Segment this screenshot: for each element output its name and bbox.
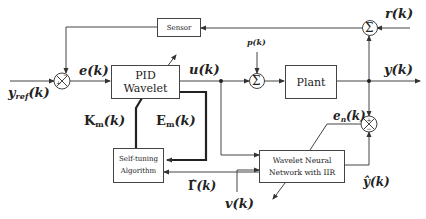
self-tuning-label-2: Algorithm: [121, 166, 157, 177]
em-arg: (k): [174, 113, 195, 128]
plant-label: Plant: [297, 76, 326, 89]
pid-wavelet-label: PID Wavelet: [112, 69, 179, 95]
signal-en: en(k): [333, 110, 366, 124]
signal-gamma-hat: Γ̂(k): [188, 180, 216, 192]
self-tuning-label-1: Self-tuning: [119, 154, 158, 165]
pid-wavelet-block: PID Wavelet: [111, 65, 180, 99]
sensor-label: Sensor: [167, 24, 192, 32]
svg-text:−: −: [63, 71, 68, 78]
sigma-sensor: Σ: [365, 22, 373, 34]
signal-e: e(k): [79, 64, 109, 77]
sigma-plant: Σ: [252, 75, 260, 87]
signal-em: Em(k): [156, 114, 196, 128]
yref-arg: (k): [28, 85, 49, 100]
svg-text:−: −: [367, 125, 372, 132]
signal-km: Km(k): [84, 114, 125, 128]
signal-y-hat: ŷ(k): [363, 176, 390, 188]
svg-text:+: +: [56, 79, 61, 86]
plant-block: Plant: [285, 65, 337, 99]
yref-sub: ref: [16, 91, 29, 101]
block-diagram: + − + − Σ Σ Sensor PID Wavelet Plant Sel…: [0, 0, 426, 219]
signal-u: u(k): [189, 63, 220, 76]
signal-r: r(k): [385, 7, 413, 20]
yref-main: y: [8, 85, 16, 100]
svg-text:+: +: [367, 116, 372, 123]
km-arg: (k): [104, 113, 125, 128]
signal-p: p(k): [247, 38, 266, 46]
km-sub: m: [95, 119, 104, 129]
km-main: K: [84, 113, 95, 128]
en-main: e: [333, 109, 341, 123]
signal-y: y(k): [384, 63, 413, 76]
wavelet-nn-block: Wavelet Neural Network with IIR: [259, 150, 345, 183]
en-arg: (k): [346, 109, 366, 123]
em-main: E: [156, 113, 166, 128]
junction-dot-u: [219, 79, 223, 83]
gamma-arg: (k): [197, 179, 217, 193]
gamma-main: Γ̂: [188, 179, 197, 193]
wnn-label-1: Wavelet Neural: [273, 155, 332, 167]
signal-yref: yref(k): [8, 86, 50, 100]
junction-dot-y: [367, 79, 371, 83]
sensor-block: Sensor: [157, 18, 201, 37]
self-tuning-block: Self-tuning Algorithm: [113, 148, 164, 183]
wnn-label-2: Network with IIR: [269, 167, 335, 179]
signal-v: v(k): [225, 197, 254, 210]
